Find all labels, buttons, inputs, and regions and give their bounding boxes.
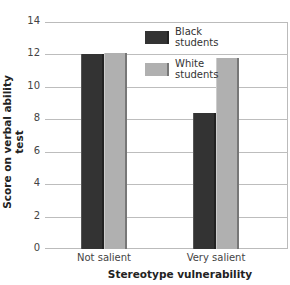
bar-black-students (81, 54, 104, 249)
legend-item-black: Black students (145, 26, 235, 48)
legend-swatch-white (145, 63, 169, 76)
bar-white-students (104, 53, 127, 249)
legend-label: White (175, 58, 235, 69)
x-category-label: Very salient (176, 252, 256, 263)
bar-black-students (193, 113, 216, 249)
legend-swatch-black (145, 31, 169, 44)
x-axis-label: Stereotype vulnerability (80, 268, 280, 280)
legend-label: students (175, 37, 235, 48)
y-tick-label: 12 (22, 47, 40, 58)
x-category-label: Not salient (64, 252, 144, 263)
legend-item-white: White students (145, 58, 235, 80)
legend-label: students (175, 69, 235, 80)
y-tick-label: 14 (22, 15, 40, 26)
legend-label: Black (175, 26, 235, 37)
bar-white-students (216, 58, 239, 249)
y-axis-label: Score on verbal ability test (1, 67, 25, 217)
y-tick-label: 0 (22, 242, 40, 253)
